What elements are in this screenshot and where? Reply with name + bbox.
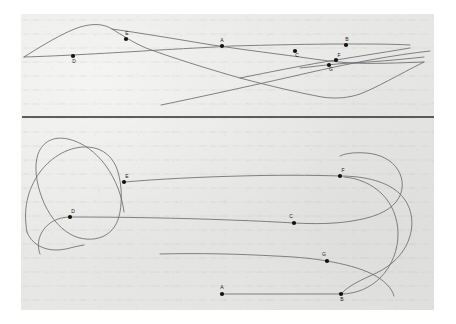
point-marker-g[interactable] [327, 63, 331, 67]
point-label-c: C [289, 213, 293, 219]
curve-path [124, 175, 340, 182]
figure-page: EACBFGD EFDCGAB [0, 0, 456, 324]
point-marker-e[interactable] [124, 37, 128, 41]
curve-path [38, 217, 70, 254]
top-panel-nodes: EACBFGD [71, 30, 349, 72]
curve-path [160, 254, 394, 296]
point-marker-b[interactable] [344, 43, 348, 47]
curve-figure-svg: EACBFGD EFDCGAB [0, 0, 456, 324]
top-panel-curves [24, 25, 430, 105]
bottom-panel-nodes: EFDCGAB [68, 167, 345, 302]
point-marker-f[interactable] [338, 174, 342, 178]
point-marker-d[interactable] [71, 54, 75, 58]
point-label-e: E [125, 173, 129, 179]
point-label-a: A [220, 37, 224, 43]
point-marker-a[interactable] [220, 292, 224, 296]
curve-path [26, 138, 124, 239]
point-marker-d[interactable] [68, 215, 72, 219]
point-marker-b[interactable] [339, 292, 343, 296]
point-label-d: D [71, 208, 75, 214]
point-marker-g[interactable] [325, 259, 329, 263]
bottom-panel-group: EFDCGAB [26, 138, 412, 302]
point-label-b: B [345, 36, 349, 42]
point-marker-c[interactable] [292, 221, 296, 225]
point-marker-a[interactable] [220, 44, 224, 48]
bottom-panel-curves [26, 138, 412, 296]
point-label-g: G [322, 251, 326, 257]
point-marker-e[interactable] [122, 180, 126, 184]
point-label-d: D [72, 58, 76, 64]
point-marker-c[interactable] [293, 49, 297, 53]
point-label-f: F [341, 167, 344, 173]
curve-path [161, 51, 430, 105]
point-label-a: A [220, 284, 224, 290]
point-label-b: B [340, 296, 344, 302]
point-label-f: F [337, 52, 340, 58]
curve-path [27, 232, 84, 250]
curve-path [112, 29, 424, 63]
top-panel-group: EACBFGD [24, 25, 430, 105]
point-marker-f[interactable] [334, 58, 338, 62]
